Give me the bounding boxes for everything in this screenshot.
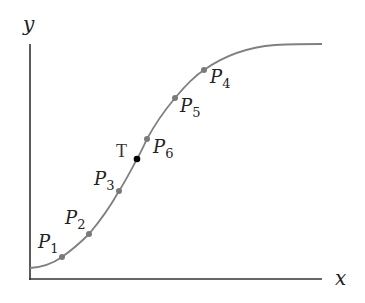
point-p3	[116, 188, 122, 194]
label-p4: P4	[209, 66, 230, 91]
label-p2: P2	[64, 207, 85, 232]
point-p6	[144, 136, 150, 142]
y-axis-label: y	[22, 12, 35, 36]
sigmoid-diagram: y x P1 P2 P3 T P6 P5 P4	[0, 0, 365, 303]
point-t	[134, 156, 141, 163]
x-axis-label: x	[335, 266, 346, 290]
label-p5: P5	[179, 95, 200, 120]
label-t: T	[116, 141, 127, 161]
label-p3: P3	[93, 168, 114, 193]
point-p4	[201, 67, 207, 73]
point-p1	[59, 254, 65, 260]
label-p6: P6	[152, 136, 173, 161]
s-curve	[30, 44, 322, 268]
point-p2	[86, 231, 92, 237]
point-p5	[172, 95, 178, 101]
label-p1: P1	[37, 231, 58, 256]
